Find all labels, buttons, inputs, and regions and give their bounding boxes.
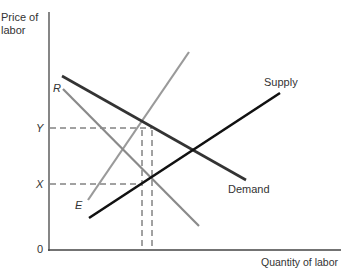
r-curve: [63, 89, 199, 226]
e-label: E: [75, 199, 82, 212]
y-axis-label-line2: labor: [1, 24, 25, 37]
demand-label: Demand: [228, 183, 270, 196]
supply-label: Supply: [264, 76, 298, 89]
x-tick-label: X: [36, 178, 43, 191]
labor-market-chart: [0, 0, 351, 273]
r-label: R: [53, 82, 61, 95]
origin-label: 0: [37, 243, 43, 256]
demand-curve: [62, 76, 246, 180]
y-tick-label: Y: [36, 122, 43, 135]
y-axis-label-line1: Price of: [1, 11, 38, 24]
e-curve: [88, 52, 189, 200]
x-axis-label: Quantity of labor: [261, 256, 338, 269]
